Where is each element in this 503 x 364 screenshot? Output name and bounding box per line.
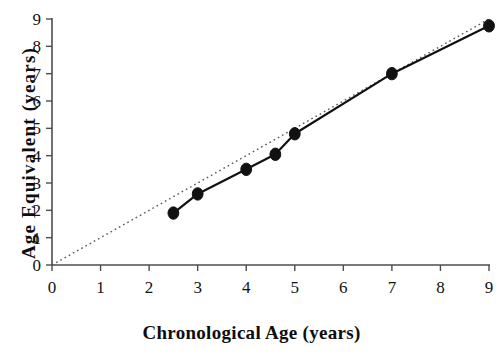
x-tick-label: 5 bbox=[291, 279, 300, 296]
reference-line bbox=[52, 19, 489, 265]
x-tick-label: 4 bbox=[242, 279, 251, 296]
data-point-marker[interactable] bbox=[270, 148, 281, 160]
x-axis-title: Chronological Age (years) bbox=[0, 322, 503, 344]
x-tick-label: 6 bbox=[339, 279, 348, 296]
y-tick-label: 9 bbox=[33, 11, 42, 28]
data-series-line bbox=[173, 26, 489, 213]
plot-area bbox=[0, 0, 503, 364]
x-tick-label: 1 bbox=[96, 279, 105, 296]
data-point-marker[interactable] bbox=[168, 207, 179, 219]
data-point-marker[interactable] bbox=[386, 67, 397, 79]
data-series-markers bbox=[168, 20, 494, 220]
x-tick-label: 2 bbox=[145, 279, 154, 296]
x-tick-label: 0 bbox=[48, 279, 57, 296]
x-tick-label: 9 bbox=[485, 279, 494, 296]
data-point-marker[interactable] bbox=[289, 128, 300, 140]
data-polyline bbox=[173, 26, 489, 213]
y-axis-title: Age Equivalent (years) bbox=[18, 28, 40, 278]
tick-marks bbox=[46, 19, 489, 271]
x-tick-label: 3 bbox=[193, 279, 202, 296]
x-tick-label: 7 bbox=[388, 279, 397, 296]
data-point-marker[interactable] bbox=[241, 163, 252, 175]
identity-reference-line bbox=[52, 19, 489, 265]
chart-container: 0123456789 0123456789 Age Equivalent (ye… bbox=[0, 0, 503, 364]
data-point-marker[interactable] bbox=[192, 188, 203, 200]
x-tick-label: 8 bbox=[436, 279, 445, 296]
data-point-marker[interactable] bbox=[484, 20, 495, 32]
